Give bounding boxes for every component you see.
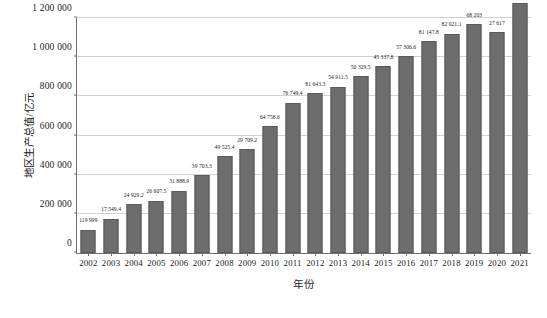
bar-slot: 64 758.6	[259, 18, 282, 253]
x-tick-label: 2012	[306, 258, 324, 268]
x-axis-title: 年份	[76, 276, 531, 291]
bar[interactable]	[353, 76, 368, 253]
x-tick-label: 2016	[397, 258, 415, 268]
bar-value-label: 76 749.4	[283, 90, 303, 97]
x-tick-mark	[247, 253, 248, 256]
x-tick-label: 2004	[125, 258, 143, 268]
bar-slot: 27 617	[486, 18, 509, 253]
bar[interactable]	[444, 34, 459, 253]
bar-value-label: 29 709.2	[237, 136, 257, 143]
x-tick-mark	[338, 253, 339, 256]
bar-value-label: 82 021.1	[442, 21, 462, 28]
bar-value-label: 68 203	[466, 11, 482, 18]
bar-value-label: 24 929.2	[124, 191, 144, 198]
bar-slot: 17 549.4	[100, 18, 123, 253]
bar[interactable]	[285, 103, 300, 253]
y-tick-label: 600 000	[40, 121, 72, 131]
bar-value-label: 27 617	[489, 19, 505, 26]
plot-area: 0200 000400 000600 000800 0001 000 0001 …	[76, 18, 531, 254]
x-tick-label: 2013	[329, 258, 347, 268]
bar-value-label: 45 337.8	[373, 53, 393, 60]
bar-slot: 54 911.5	[327, 18, 350, 253]
bar-slot: 45 337.8	[372, 18, 395, 253]
y-tick-label: 800 000	[40, 81, 72, 91]
x-tick-label: 2015	[374, 258, 392, 268]
bar-value-label: 57 306.6	[396, 43, 416, 50]
x-tick-label: 2017	[420, 258, 438, 268]
bar-slot: 127 805.9	[508, 18, 531, 253]
bar-value-label: 50 329.5	[351, 63, 371, 70]
bar[interactable]	[262, 126, 277, 253]
bar[interactable]	[104, 219, 119, 253]
x-tick-label: 2003	[102, 258, 120, 268]
bar-value-label: 119 999	[79, 217, 97, 224]
bar-slot: 24 929.2	[122, 18, 145, 253]
bar-value-label: 39 703.3	[192, 162, 212, 169]
x-tick-mark	[520, 253, 521, 256]
bar[interactable]	[172, 191, 187, 253]
bar[interactable]	[194, 175, 209, 253]
x-tick-label: 2018	[442, 258, 460, 268]
bar-slot: 31 888.9	[168, 18, 191, 253]
bar[interactable]	[331, 87, 346, 253]
bar[interactable]	[149, 201, 164, 253]
bar-slot: 39 703.3	[191, 18, 214, 253]
x-tick-label: 2009	[238, 258, 256, 268]
x-tick-mark	[474, 253, 475, 256]
bar-slot: 119 999	[77, 18, 100, 253]
bar-slot: 26 607.5	[145, 18, 168, 253]
bar-value-label: 64 758.6	[260, 113, 280, 120]
bar[interactable]	[421, 41, 436, 253]
bar-value-label: 54 911.5	[328, 74, 348, 81]
bar-value-label: 31 888.9	[169, 178, 189, 185]
x-tick-mark	[406, 253, 407, 256]
chart-figure: 地区生产总值/亿元 0200 000400 000600 000800 0001…	[0, 0, 547, 318]
x-tick-label: 2006	[170, 258, 188, 268]
x-tick-label: 2002	[79, 258, 97, 268]
y-tick-label: 0	[67, 238, 72, 248]
x-tick-label: 2008	[215, 258, 233, 268]
bar[interactable]	[217, 156, 232, 253]
x-tick-mark	[202, 253, 203, 256]
bar-value-label: 49 525.4	[215, 143, 235, 150]
x-tick-mark	[270, 253, 271, 256]
bar[interactable]	[467, 24, 482, 253]
bar[interactable]	[81, 230, 96, 253]
bar-slot: 82 021.1	[440, 18, 463, 253]
bars-group: 119 99917 549.424 929.226 607.531 888.93…	[77, 18, 531, 253]
x-tick-label: 2014	[352, 258, 370, 268]
y-tick-label: 200 000	[40, 199, 72, 209]
bar-slot: 49 525.4	[213, 18, 236, 253]
bar-value-label: 81 643.3	[305, 80, 325, 87]
bar-slot: 29 709.2	[236, 18, 259, 253]
x-tick-label: 2007	[193, 258, 211, 268]
bar-value-label: 81 147.8	[419, 28, 439, 35]
x-tick-label: 2021	[510, 258, 528, 268]
bar[interactable]	[489, 32, 504, 253]
x-tick-label: 2005	[147, 258, 165, 268]
x-tick-mark	[315, 253, 316, 256]
x-tick-mark	[88, 253, 89, 256]
x-tick-mark	[179, 253, 180, 256]
bar-slot: 57 306.6	[395, 18, 418, 253]
x-tick-mark	[497, 253, 498, 256]
x-tick-mark	[361, 253, 362, 256]
bar[interactable]	[376, 66, 391, 253]
y-tick-label: 400 000	[40, 160, 72, 170]
x-tick-mark	[134, 253, 135, 256]
bar-slot: 81 147.8	[418, 18, 441, 253]
x-tick-mark	[225, 253, 226, 256]
bar-value-label: 26 607.5	[146, 188, 166, 195]
bar-slot: 68 203	[463, 18, 486, 253]
bar[interactable]	[512, 3, 527, 253]
bar[interactable]	[126, 204, 141, 253]
y-tick-label: 1 000 000	[32, 42, 72, 52]
bar[interactable]	[399, 56, 414, 253]
bar-slot: 50 329.5	[349, 18, 372, 253]
bar[interactable]	[240, 149, 255, 253]
bar-slot: 81 643.3	[304, 18, 327, 253]
x-tick-mark	[383, 253, 384, 256]
x-tick-label: 2020	[488, 258, 506, 268]
bar[interactable]	[308, 93, 323, 253]
x-tick-label: 2010	[261, 258, 279, 268]
